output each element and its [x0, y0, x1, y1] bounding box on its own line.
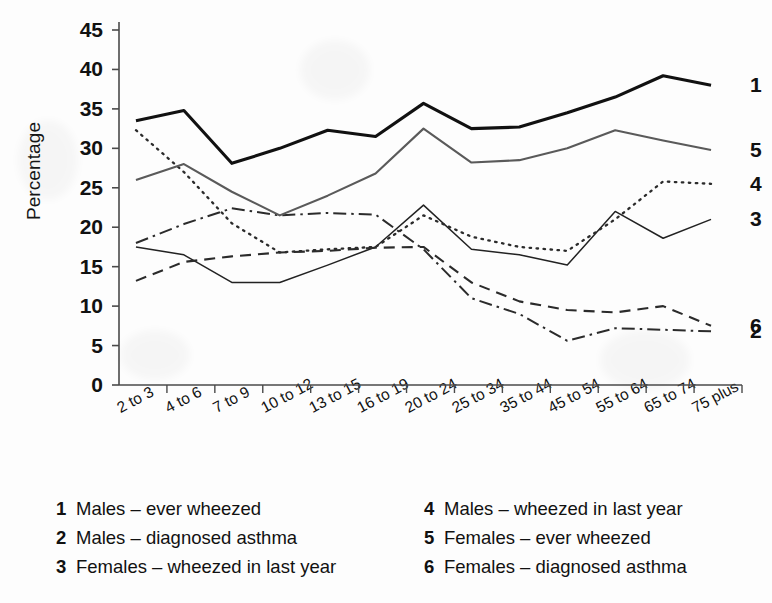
- legend-item-key: 5: [424, 527, 441, 549]
- legend-item-label: Females – diagnosed asthma: [441, 556, 687, 578]
- legend-item: 3Females – wheezed in last year: [56, 556, 336, 585]
- series-line-6: [136, 247, 711, 326]
- legend-item-label: Males – diagnosed asthma: [73, 527, 297, 549]
- legend-item-label: Males – wheezed in last year: [441, 498, 683, 520]
- legend-item: 2Males – diagnosed asthma: [56, 527, 336, 556]
- legend-item: 6Females – diagnosed asthma: [424, 556, 687, 585]
- legend-column-left: 1Males – ever wheezed2Males – diagnosed …: [56, 498, 336, 585]
- legend-item: 1Males – ever wheezed: [56, 498, 336, 527]
- legend-item-key: 3: [56, 556, 73, 578]
- legend-item-label: Males – ever wheezed: [73, 498, 261, 520]
- series-line-5: [136, 129, 711, 216]
- line-chart: Percentage 454035302520151050 2 to 34 to…: [0, 0, 772, 490]
- chart-canvas: [0, 0, 772, 490]
- series-line-4: [136, 130, 711, 252]
- legend-item-label: Females – ever wheezed: [441, 527, 651, 549]
- series-line-3: [136, 205, 711, 282]
- legend-item-label: Females – wheezed in last year: [73, 556, 336, 578]
- legend: 1Males – ever wheezed2Males – diagnosed …: [0, 492, 772, 603]
- legend-item: 4Males – wheezed in last year: [424, 498, 687, 527]
- legend-item-key: 2: [56, 527, 73, 549]
- series-line-2: [136, 208, 711, 341]
- legend-item-key: 6: [424, 556, 441, 578]
- figure-root: Percentage 454035302520151050 2 to 34 to…: [0, 0, 772, 603]
- legend-item-key: 4: [424, 498, 441, 520]
- legend-item-key: 1: [56, 498, 73, 520]
- legend-item: 5Females – ever wheezed: [424, 527, 687, 556]
- legend-column-right: 4Males – wheezed in last year5Females – …: [424, 498, 687, 585]
- series-line-1: [136, 76, 711, 164]
